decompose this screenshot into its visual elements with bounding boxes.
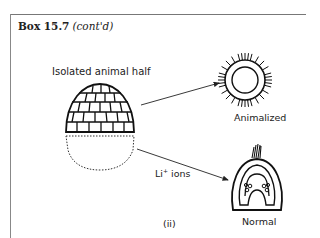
label-animalized: Animalized: [234, 112, 286, 123]
label-li-ions: Li+ ions: [155, 167, 190, 179]
label-normal: Normal: [242, 216, 276, 227]
arrow-to-animalized: [141, 83, 219, 105]
panel-label: (ii): [163, 218, 176, 229]
animal-half-cells-icon: [66, 84, 134, 132]
label-isolated-animal-half: Isolated animal half: [52, 66, 151, 77]
li-ions-prefix: Li: [155, 168, 163, 179]
normal-embryo-icon: [232, 144, 282, 210]
li-ions-suffix: ions: [168, 168, 190, 179]
removed-vegetal-half-outline: [66, 136, 134, 170]
animalized-embryo-icon: [218, 53, 272, 107]
